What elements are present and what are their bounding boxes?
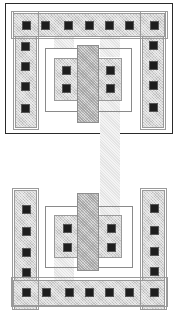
device-contact	[107, 243, 116, 252]
contact-square	[125, 21, 134, 30]
contact-square	[150, 226, 159, 235]
contact-square	[150, 267, 159, 276]
contact-square	[150, 204, 159, 213]
contact-square	[149, 41, 158, 50]
device-contact	[63, 224, 72, 233]
contact-square	[125, 288, 134, 297]
contact-square	[150, 21, 159, 30]
contact-square	[149, 81, 158, 90]
device-contact	[62, 84, 71, 93]
contact-square	[42, 288, 51, 297]
contact-square	[85, 288, 94, 297]
contact-square	[105, 288, 114, 297]
contact-square	[149, 103, 158, 112]
contact-square	[22, 288, 31, 297]
contact-square	[21, 82, 30, 91]
contact-square	[21, 104, 30, 113]
contact-square	[85, 21, 94, 30]
top-gate-poly	[77, 45, 99, 123]
contact-square	[21, 42, 30, 51]
contact-square	[149, 61, 158, 70]
contact-square	[150, 288, 159, 297]
device-contact	[106, 84, 115, 93]
contact-square	[150, 247, 159, 256]
device-contact	[107, 224, 116, 233]
contact-square	[21, 62, 30, 71]
contact-square	[65, 288, 74, 297]
contact-square	[41, 21, 50, 30]
contact-square	[22, 21, 31, 30]
device-contact	[63, 243, 72, 252]
contact-square	[22, 248, 31, 257]
contact-square	[22, 227, 31, 236]
contact-square	[105, 21, 114, 30]
device-contact	[62, 66, 71, 75]
contact-square	[64, 21, 73, 30]
contact-square	[22, 205, 31, 214]
device-contact	[106, 66, 115, 75]
bottom-gate-poly	[77, 193, 99, 271]
contact-square	[22, 268, 31, 277]
